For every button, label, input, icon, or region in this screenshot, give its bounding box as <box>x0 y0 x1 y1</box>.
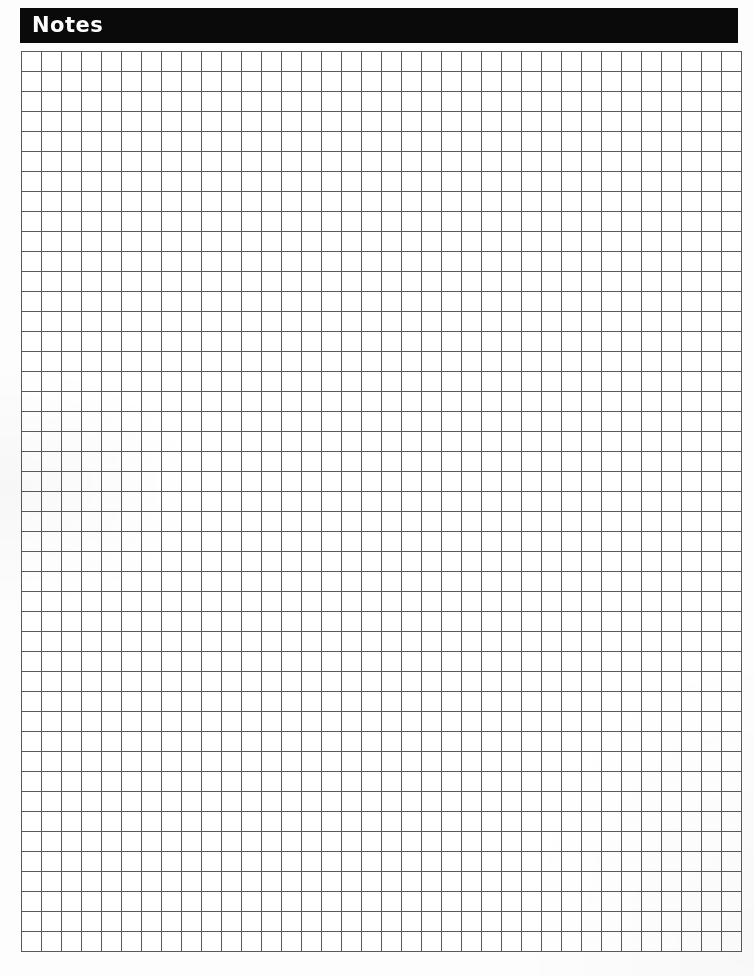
page-title: Notes <box>32 15 103 36</box>
graph-paper-grid[interactable] <box>21 51 742 952</box>
notes-page: Notes <box>0 0 754 976</box>
notes-header-bar: Notes <box>20 8 738 43</box>
